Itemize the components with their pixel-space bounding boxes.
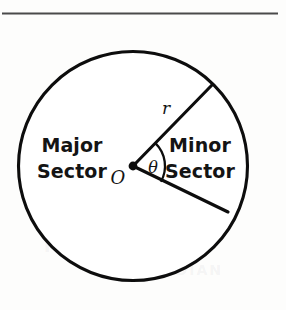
minor-sector-label-line1: Minor	[169, 134, 231, 156]
figure-container: INVERSE TRIG FUNCTIONS RADIAN Major Sect…	[0, 0, 286, 310]
minor-sector-label-line2: Sector	[165, 160, 235, 182]
radius-label: r	[162, 98, 171, 118]
center-dot-icon	[129, 162, 138, 171]
major-sector-label-line1: Major	[41, 134, 103, 156]
center-label: O	[111, 167, 126, 188]
sector-diagram-svg: Major Sector Minor Sector r O θ	[0, 0, 286, 310]
major-sector-label-line2: Sector	[37, 160, 107, 182]
angle-label: θ	[148, 158, 158, 177]
